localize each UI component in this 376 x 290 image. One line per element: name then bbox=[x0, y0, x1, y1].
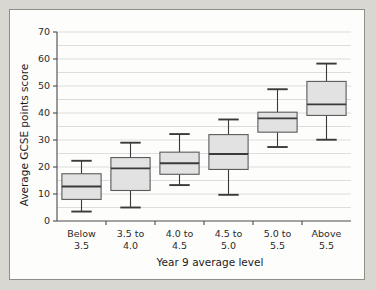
box-plot-item bbox=[209, 119, 248, 194]
x-tick-label: 3.5 to bbox=[117, 228, 145, 239]
box-iqr bbox=[258, 112, 297, 132]
x-tick-label: 3.5 bbox=[74, 240, 89, 251]
x-tick-label: Above bbox=[312, 228, 342, 239]
box-series bbox=[62, 64, 346, 225]
box-plot-item bbox=[160, 134, 199, 185]
x-tick-label: 4.5 bbox=[172, 240, 187, 251]
x-tick-label: 5.0 bbox=[221, 240, 236, 251]
x-tick-label: Below bbox=[67, 228, 96, 239]
box-iqr bbox=[209, 135, 248, 170]
box-plot-item bbox=[62, 161, 101, 212]
y-tick-label: 40 bbox=[38, 107, 50, 118]
y-axis-ticks: 010203040506070 bbox=[38, 26, 57, 226]
x-tick-label: 5.5 bbox=[319, 240, 334, 251]
y-tick-label: 0 bbox=[44, 215, 50, 226]
y-tick-label: 20 bbox=[38, 161, 50, 172]
box-plot-item bbox=[111, 143, 150, 208]
y-tick-label: 70 bbox=[38, 26, 50, 37]
y-tick-label: 10 bbox=[38, 188, 50, 199]
x-axis-category-labels: Below3.53.5 to4.04.0 to4.54.5 to5.05.0 t… bbox=[67, 228, 341, 251]
y-axis-title: Average GCSE points score bbox=[18, 64, 30, 206]
x-tick-label: 4.0 bbox=[123, 240, 138, 251]
box-iqr bbox=[111, 158, 150, 191]
x-tick-label: 4.5 to bbox=[215, 228, 243, 239]
y-tick-label: 30 bbox=[38, 134, 50, 145]
figure-panel: 010203040506070 Below3.53.5 to4.04.0 to4… bbox=[9, 9, 365, 280]
boxplot-chart: 010203040506070 Below3.53.5 to4.04.0 to4… bbox=[10, 10, 364, 279]
box-plot-item bbox=[258, 89, 297, 147]
y-tick-label: 50 bbox=[38, 80, 50, 91]
y-tick-label: 60 bbox=[38, 53, 50, 64]
boxplot-svg: 010203040506070 Below3.53.5 to4.04.0 to4… bbox=[10, 10, 364, 279]
x-tick-label: 5.5 bbox=[270, 240, 285, 251]
box-plot-item bbox=[307, 64, 346, 140]
box-iqr bbox=[307, 81, 346, 115]
x-tick-label: 4.0 to bbox=[166, 228, 194, 239]
x-axis-title: Year 9 average level bbox=[156, 256, 264, 268]
x-tick-label: 5.0 to bbox=[264, 228, 292, 239]
